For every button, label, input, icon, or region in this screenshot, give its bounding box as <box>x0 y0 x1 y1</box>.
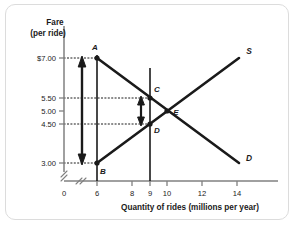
ytick-label-5-50: 5.50 <box>41 94 56 103</box>
point-label-b: B <box>100 167 106 176</box>
point-label-e: E <box>173 108 179 117</box>
x-axis-title: Quantity of rides (millions per year) <box>121 203 259 212</box>
xtick-label-10: 10 <box>163 189 171 198</box>
xtick-label-8: 8 <box>130 189 134 198</box>
xtick-label-12: 12 <box>198 189 206 198</box>
point-label-d: D <box>154 126 160 135</box>
supply-demand-chart: $7.00 5.50 5.00 4.50 3.00 0 6 8 9 10 12 … <box>0 0 295 225</box>
dotted-leader-lines <box>64 58 150 163</box>
point-label-c: C <box>154 85 160 94</box>
supply-curve-label: S <box>246 46 252 56</box>
y-axis-title-line2: (per ride) <box>30 29 66 38</box>
xtick-label-0: 0 <box>62 189 66 198</box>
point-e <box>164 108 169 113</box>
figure-container: $7.00 5.50 5.00 4.50 3.00 0 6 8 9 10 12 … <box>0 0 295 225</box>
ytick-label-5-00: 5.00 <box>41 107 56 116</box>
point-b <box>94 160 99 165</box>
y-axis-break-mark <box>61 171 67 181</box>
demand-curve-label: D <box>246 153 252 163</box>
ytick-label-3-00: 3.00 <box>41 159 56 168</box>
point-d <box>147 121 152 126</box>
point-c <box>147 95 152 100</box>
xtick-label-9: 9 <box>148 189 152 198</box>
ytick-label-7-00: $7.00 <box>37 54 56 63</box>
xtick-label-6: 6 <box>95 189 99 198</box>
xtick-label-14: 14 <box>233 189 241 198</box>
y-axis-title-line1: Fare <box>46 18 64 27</box>
point-label-a: A <box>91 43 98 52</box>
small-span-arrow <box>138 96 145 126</box>
point-a <box>94 55 99 60</box>
ytick-label-4-50: 4.50 <box>41 120 56 129</box>
large-span-arrow <box>78 56 86 165</box>
